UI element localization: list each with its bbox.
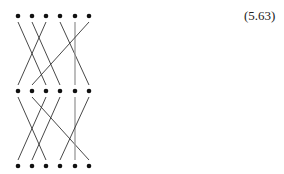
lower-strand (32, 97, 89, 160)
upper-strand (32, 22, 60, 85)
vertex-dot (58, 164, 63, 169)
vertex-dot (87, 164, 92, 169)
vertex-dot (58, 14, 63, 19)
lower-strand (32, 97, 60, 160)
vertex-dot (16, 164, 21, 169)
vertex-dot (58, 89, 63, 94)
vertex-dot (30, 14, 35, 19)
equation-number: (5.63) (244, 8, 275, 24)
vertex-dot (44, 89, 49, 94)
vertex-dot (16, 89, 21, 94)
vertex-dot (73, 89, 78, 94)
vertex-dot (30, 89, 35, 94)
vertex-dot (87, 89, 92, 94)
vertex-dot (87, 14, 92, 19)
vertex-dot (44, 164, 49, 169)
vertex-dot (73, 14, 78, 19)
vertex-dot (73, 164, 78, 169)
vertex-dot (16, 14, 21, 19)
permutation-diagram (0, 0, 284, 174)
vertex-dot (30, 164, 35, 169)
upper-strand (32, 22, 89, 85)
vertex-dot (44, 14, 49, 19)
